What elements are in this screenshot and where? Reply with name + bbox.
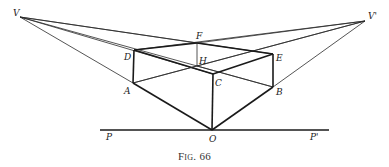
edge-C-O — [212, 74, 213, 130]
label-P-prime: P' — [309, 132, 319, 142]
label-V: V — [13, 8, 21, 18]
line-V-O — [20, 17, 133, 83]
perspective-diagram: V V' F D E H C A B O P P' — [0, 0, 389, 167]
label-H: H — [198, 56, 207, 66]
label-F: F — [195, 31, 203, 41]
edge-H-B — [197, 66, 273, 87]
label-V-prime: V' — [368, 11, 377, 21]
figure-caption: Fig. 66 — [0, 150, 389, 162]
label-A: A — [123, 86, 131, 96]
label-B: B — [275, 87, 283, 97]
label-E: E — [275, 53, 283, 63]
edge-B-O — [212, 87, 273, 130]
edge-D-F — [134, 43, 197, 50]
edge-C-E — [213, 54, 273, 74]
label-P: P — [105, 132, 113, 142]
label-D: D — [123, 52, 131, 62]
label-C: C — [215, 78, 222, 88]
edge-A-H — [133, 66, 197, 83]
edge-A-O — [133, 83, 212, 130]
label-O: O — [209, 134, 217, 144]
figure-caption-text: Fig. 66 — [178, 150, 211, 162]
edge-D-A — [133, 50, 134, 83]
